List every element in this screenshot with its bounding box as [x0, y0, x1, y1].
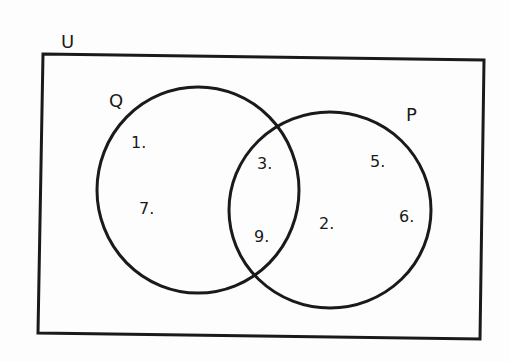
set-q-label: Q [109, 92, 123, 110]
element-7: 7. [139, 201, 154, 217]
element-6: 6. [399, 209, 414, 225]
element-5: 5. [370, 154, 385, 170]
venn-diagram: U Q P 1. 7. 3. 9. 5. 6. 2. [0, 0, 509, 362]
universe-rectangle [38, 54, 484, 339]
element-3: 3. [257, 156, 272, 172]
element-1: 1. [131, 135, 146, 151]
element-2: 2. [319, 216, 334, 232]
element-9: 9. [254, 229, 269, 245]
universe-label: U [61, 33, 74, 51]
set-p-label: P [406, 106, 417, 124]
set-q-circle [97, 87, 299, 293]
venn-shapes [0, 0, 509, 362]
